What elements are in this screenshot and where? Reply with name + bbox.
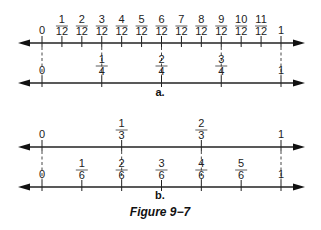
whole-number-label: 0 — [39, 24, 45, 36]
fraction-denominator: 12 — [116, 25, 128, 37]
fraction-denominator: 6 — [119, 169, 125, 181]
arrow-left-icon — [18, 184, 30, 191]
whole-number-label: 1 — [278, 168, 284, 180]
fraction-denominator: 12 — [235, 25, 247, 37]
fraction-denominator: 12 — [155, 25, 167, 37]
fraction-denominator: 12 — [175, 25, 187, 37]
fraction-denominator: 4 — [218, 65, 224, 77]
whole-number-label: 1 — [278, 128, 284, 140]
fraction-denominator: 6 — [79, 169, 85, 181]
fraction-denominator: 12 — [76, 25, 88, 37]
fraction-numerator: 1 — [119, 117, 125, 129]
fraction-numerator: 3 — [158, 157, 164, 169]
whole-number-label: 1 — [278, 24, 284, 36]
fraction-denominator: 3 — [119, 129, 125, 141]
arrow-right-icon — [293, 40, 305, 47]
part-label: b. — [155, 189, 165, 201]
arrow-right-icon — [293, 184, 305, 191]
fraction-denominator: 6 — [158, 169, 164, 181]
fraction-denominator: 3 — [198, 129, 204, 141]
arrow-right-icon — [293, 80, 305, 87]
fraction-numerator: 3 — [99, 13, 105, 25]
fraction-denominator: 4 — [99, 65, 105, 77]
fraction-numerator: 2 — [119, 157, 125, 169]
fraction-numerator: 6 — [158, 13, 164, 25]
fraction-denominator: 6 — [198, 169, 204, 181]
fraction-denominator: 12 — [56, 25, 68, 37]
fraction-denominator: 6 — [238, 169, 244, 181]
whole-number-label: 0 — [39, 168, 45, 180]
arrow-right-icon — [293, 144, 305, 151]
fraction-denominator: 12 — [195, 25, 207, 37]
part-label: a. — [155, 86, 164, 98]
fraction-numerator: 4 — [198, 157, 204, 169]
fraction-numerator: 1 — [99, 53, 105, 65]
fraction-numerator: 5 — [238, 157, 244, 169]
whole-number-label: 0 — [39, 64, 45, 76]
fraction-numerator: 2 — [198, 117, 204, 129]
figure-caption: Figure 9−7 — [130, 205, 192, 219]
whole-number-label: 1 — [278, 64, 284, 76]
fraction-denominator: 12 — [215, 25, 227, 37]
fraction-denominator: 12 — [96, 25, 108, 37]
fraction-numerator: 3 — [218, 53, 224, 65]
fraction-numerator: 8 — [198, 13, 204, 25]
fraction-numerator: 9 — [218, 13, 224, 25]
fraction-denominator: 12 — [135, 25, 147, 37]
fraction-numerator: 4 — [119, 13, 125, 25]
fraction-numerator: 10 — [235, 13, 247, 25]
fraction-numerator: 1 — [79, 157, 85, 169]
fraction-numerator: 11 — [255, 13, 266, 25]
whole-number-label: 0 — [39, 128, 45, 140]
fraction-denominator: 12 — [255, 25, 267, 37]
arrow-left-icon — [18, 80, 30, 87]
fraction-numerator: 2 — [79, 13, 85, 25]
arrow-left-icon — [18, 144, 30, 151]
fraction-numerator: 7 — [178, 13, 184, 25]
fraction-numerator: 1 — [59, 13, 65, 25]
number-line-figure: 0112212312412512612712812912101211121014… — [0, 0, 321, 230]
arrow-left-icon — [18, 40, 30, 47]
fraction-denominator: 4 — [158, 65, 164, 77]
fraction-numerator: 5 — [139, 13, 145, 25]
fraction-numerator: 2 — [158, 53, 164, 65]
